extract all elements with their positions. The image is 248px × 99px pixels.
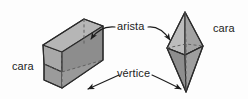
label-cara-right: cara bbox=[213, 22, 236, 34]
label-arista: arista bbox=[117, 20, 145, 32]
geometry-figure: cara arista vértice cara bbox=[0, 0, 248, 99]
figure-canvas: cara arista vértice cara bbox=[0, 0, 248, 99]
label-cara-left: cara bbox=[12, 60, 35, 72]
label-vertice: vértice bbox=[117, 67, 150, 79]
figure-background bbox=[0, 0, 248, 99]
